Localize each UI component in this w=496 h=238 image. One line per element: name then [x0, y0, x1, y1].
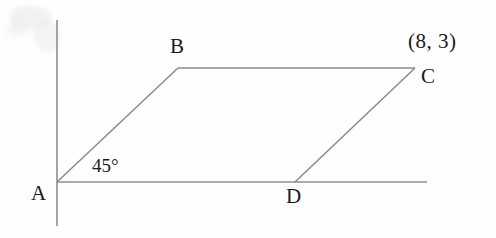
diagram-canvas: A B C D 45° (8, 3)	[0, 0, 496, 238]
angle-label-45-degrees: 45°	[92, 156, 119, 175]
segment-dc	[295, 68, 415, 182]
vertex-label-a: A	[31, 183, 46, 204]
vertex-label-c: C	[421, 66, 435, 87]
coordinate-label-point-c: (8, 3)	[408, 31, 457, 52]
vertex-label-d: D	[286, 186, 301, 207]
vertex-label-b: B	[170, 36, 184, 57]
